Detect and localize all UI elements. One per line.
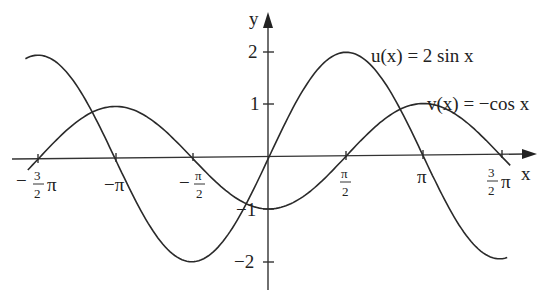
x-tick-label-neg-pi2: − π 2 — [179, 168, 205, 201]
svg-text:−: − — [179, 172, 190, 193]
svg-text:π: π — [341, 166, 348, 181]
x-tick-label-3pi2: 3 2 π — [487, 165, 511, 198]
svg-text:2: 2 — [342, 184, 349, 199]
svg-text:−: − — [16, 170, 27, 191]
y-tick-label-m1: −1 — [236, 199, 256, 220]
svg-text:3: 3 — [34, 168, 41, 183]
svg-text:π: π — [47, 174, 57, 195]
y-tick-label-m2: −2 — [234, 251, 254, 272]
function-plot: y x 2 1 −1 −2 − 3 2 π −π − π 2 π 2 π 3 2… — [0, 0, 545, 295]
svg-text:2: 2 — [196, 186, 203, 201]
y-axis-label: y — [249, 8, 259, 29]
svg-text:3: 3 — [488, 165, 495, 180]
x-tick-label-neg-pi: −π — [104, 174, 125, 195]
x-tick-label-pi: π — [417, 166, 427, 187]
y-tick-label-1: 1 — [250, 93, 260, 114]
v-curve-label: v(x) = −cos x — [427, 93, 530, 115]
svg-text:2: 2 — [488, 183, 495, 198]
svg-text:π: π — [501, 171, 511, 192]
y-tick-label-2: 2 — [248, 41, 258, 62]
y-axis-arrow-icon — [263, 12, 273, 28]
x-axis-label: x — [521, 163, 531, 184]
x-tick-label-neg-3pi2: − 3 2 π — [16, 168, 57, 201]
svg-text:π: π — [195, 168, 202, 183]
u-curve-label: u(x) = 2 sin x — [371, 45, 474, 67]
x-tick-label-pi2: π 2 — [340, 166, 351, 199]
svg-text:2: 2 — [34, 186, 41, 201]
x-axis-arrow-icon — [522, 149, 537, 159]
